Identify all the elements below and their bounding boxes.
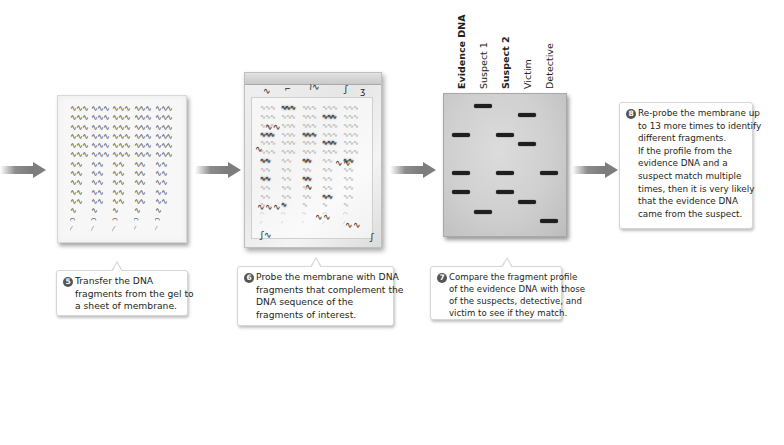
dna-fragment-icon: ∿∿∿ <box>91 150 112 159</box>
caption-line: If the profile from the <box>626 145 746 158</box>
caption-line: fragments that complement the <box>244 284 387 297</box>
step-number-badge: 6 <box>244 273 254 283</box>
dna-fragment-icon: ∿∿∿ <box>343 104 364 113</box>
dna-fragment-icon: ∿∿∿ <box>260 148 281 157</box>
dna-fragment-icon: ∿∿ <box>155 169 176 178</box>
probed-fragment-icon: ∿∿∿ <box>281 104 302 113</box>
dna-fragment-icon: ∿ <box>91 206 112 215</box>
dna-fragment-icon: ⌒ <box>91 215 112 224</box>
dna-fragment-icon: ∿∿∿ <box>70 123 91 132</box>
dna-fragment-icon: ∿∿∿ <box>70 104 91 113</box>
dna-fragment-icon: ∿∿∿ <box>70 113 91 122</box>
dna-fragment-icon: ∿∿∿ <box>134 113 155 122</box>
dna-fragment-icon: ∿∿∿ <box>134 150 155 159</box>
probe-fragment-icon: ʃ <box>343 85 348 94</box>
dna-fragment-icon: ∿∿ <box>322 184 343 193</box>
dna-fragment-icon: ∿∿ <box>155 188 176 197</box>
dna-fragment-icon: ∿∿ <box>281 157 302 166</box>
dna-fragment-icon: ⁄ <box>281 219 302 228</box>
dna-band <box>474 210 492 214</box>
dna-fragment-icon: ∿ <box>322 201 343 210</box>
dna-fragment-icon: ∿∿∿ <box>134 141 155 150</box>
dna-fragment-icon: ∿∿∿ <box>281 113 302 122</box>
probe-fragment-icon: ∿∿ <box>265 123 281 132</box>
probed-fragment-icon: ∿∿∿ <box>302 131 323 140</box>
right-arrow-icon <box>390 162 436 178</box>
caption-line: fragments from the gel to <box>63 288 181 301</box>
dna-fragment-icon: ∿∿∿ <box>134 123 155 132</box>
dna-fragment-icon: ∿∿ <box>134 197 155 206</box>
probed-fragment-icon: ∿ <box>281 201 302 210</box>
dna-fragment-icon: ∿∿∿ <box>302 139 323 148</box>
dna-fragment-icon: ∿∿∿ <box>281 122 302 131</box>
dna-fragment-icon: ∿∿ <box>112 160 133 169</box>
dna-fragment-icon: ∿∿∿ <box>112 141 133 150</box>
step-number-badge: 5 <box>63 277 73 287</box>
lane-label-suspect-1: Suspect 1 <box>478 42 489 89</box>
dna-fragment-icon: ⁄ <box>112 225 133 234</box>
dna-fragment-icon: ∿∿∿ <box>302 122 323 131</box>
dna-fragment-icon: ∿∿ <box>134 160 155 169</box>
fragment-profile-gel <box>443 93 567 237</box>
dna-fragment-icon: ∿∿ <box>155 197 176 206</box>
dna-fragment-icon: ∿∿∿ <box>112 104 133 113</box>
caption-line: Compare the fragment profile <box>449 272 577 282</box>
lane-label-victim: Victim <box>522 59 533 89</box>
dna-fragment-icon: ⁄ <box>260 219 281 228</box>
dna-fragment-icon: ∿∿ <box>70 160 91 169</box>
caption-line: times, then it is very likely <box>626 183 746 196</box>
dna-fragment-icon: ∿∿ <box>281 184 302 193</box>
caption-line: victim to see if they match. <box>437 307 555 319</box>
dna-fragment-icon: ∿∿∿ <box>155 132 176 141</box>
dna-fragment-icon: ∿∿∿ <box>155 141 176 150</box>
right-arrow-icon <box>195 162 241 178</box>
dna-fragment-icon: ∿∿ <box>281 166 302 175</box>
probe-fragment-icon: ʃ∿ <box>259 231 272 240</box>
dna-band <box>496 171 514 175</box>
step-number-badge: 8 <box>626 109 636 119</box>
dna-fragment-icon: ∿∿ <box>70 178 91 187</box>
probe-fragment-icon: ∿ <box>263 87 271 96</box>
caption-line: DNA sequence of the <box>244 296 387 309</box>
dna-band <box>518 200 536 204</box>
dna-fragment-icon: ∿∿∿ <box>302 104 323 113</box>
dna-fragment-icon: ∿ <box>343 201 364 210</box>
dna-fragment-icon: ∿∿∿ <box>281 131 302 140</box>
step-6-caption: 6Probe the membrane with DNA fragments t… <box>237 266 394 326</box>
dna-fragment-icon: ∿∿ <box>70 197 91 206</box>
step-7-caption: 7Compare the fragment profile of the evi… <box>430 266 562 320</box>
dna-fragment-icon: ∿∿ <box>155 160 176 169</box>
dna-fragment-icon: ⌒ <box>112 215 133 224</box>
dna-fragment-icon: ∿∿ <box>281 193 302 202</box>
dna-band <box>518 142 536 146</box>
dna-fragment-icon: ∿∿∿ <box>343 113 364 122</box>
dna-fragment-icon: ∿∿∿ <box>322 122 343 131</box>
dna-band <box>540 219 558 223</box>
dna-fragment-icon: ∿∿ <box>112 197 133 206</box>
lane-label-detective: Detective <box>544 43 555 89</box>
dna-fragment-icon: ∿∿ <box>91 160 112 169</box>
caption-line: Re-probe the membrane up <box>638 108 760 118</box>
dna-fragment-icon: ∿∿∿ <box>343 139 364 148</box>
caption-line: came from the suspect. <box>626 208 746 221</box>
probe-fragment-icon: ⌐ <box>285 85 290 94</box>
caption-line: Probe the membrane with DNA <box>256 271 399 282</box>
dna-fragment-icon: ⁄ <box>70 225 91 234</box>
caption-line: Transfer the DNA <box>75 275 153 286</box>
dna-fragment-icon: ∿∿ <box>260 193 281 202</box>
dna-fragment-icon: ∿∿∿ <box>91 123 112 132</box>
dna-fragment-icon: ∿∿∿ <box>70 132 91 141</box>
dna-fragment-icon: ∿∿ <box>260 166 281 175</box>
dna-fragment-icon: ∿∿ <box>281 175 302 184</box>
dna-fragment-icon: ∿∿∿ <box>112 150 133 159</box>
dna-fragment-icon: ∿∿ <box>91 188 112 197</box>
dna-fragment-icon: ∿∿∿ <box>91 141 112 150</box>
dna-fragment-icon: ∿∿ <box>112 188 133 197</box>
dna-fragment-icon: ⌒ <box>343 210 364 219</box>
probe-fragment-icon: ∿∿ <box>335 159 351 168</box>
caption-line: of the evidence DNA with those <box>437 283 555 295</box>
probe-fragment-icon: ∿∿∿ <box>257 203 281 212</box>
dna-fragment-icon: ∿ <box>70 206 91 215</box>
dna-fragment-icon: ∿∿∿ <box>155 104 176 113</box>
dna-fragment-icon: ∿ <box>112 206 133 215</box>
